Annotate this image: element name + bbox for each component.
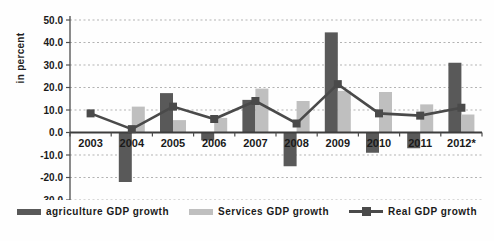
svg-text:20.0: 20.0 — [44, 82, 64, 93]
legend-item-agriculture: agriculture GDP growth — [17, 206, 169, 217]
legend-item-real-gdp: Real GDP growth — [349, 206, 477, 217]
svg-text:-10.0: -10.0 — [40, 150, 63, 161]
svg-text:0.0: 0.0 — [49, 127, 63, 138]
svg-text:2009: 2009 — [326, 137, 350, 149]
svg-text:2011: 2011 — [408, 137, 432, 149]
services-bar-swatch-icon — [189, 209, 213, 215]
svg-text:2006: 2006 — [202, 137, 226, 149]
svg-text:2008: 2008 — [284, 137, 308, 149]
svg-text:2003: 2003 — [78, 137, 102, 149]
legend-item-services: Services GDP growth — [189, 206, 329, 217]
svg-text:2010: 2010 — [367, 137, 391, 149]
svg-text:-30.0: -30.0 — [40, 195, 63, 201]
gdp-growth-chart: in percent 50.040.030.020.010.00.0-10.0-… — [0, 0, 494, 241]
real-gdp-line-swatch-icon — [349, 207, 383, 216]
svg-text:30.0: 30.0 — [44, 60, 64, 71]
svg-text:50.0: 50.0 — [44, 15, 64, 26]
agriculture-bar-swatch-icon — [17, 209, 41, 215]
legend-label-real-gdp: Real GDP growth — [388, 206, 477, 217]
svg-text:2012*: 2012* — [447, 137, 476, 149]
line-swatch-marker — [362, 207, 371, 216]
chart-legend: agriculture GDP growth Services GDP grow… — [0, 206, 494, 217]
chart-plot-area: 50.040.030.020.010.00.0-10.0-20.0-30.020… — [0, 0, 494, 200]
svg-text:2004: 2004 — [120, 137, 145, 149]
svg-text:2005: 2005 — [161, 137, 185, 149]
svg-text:-20.0: -20.0 — [40, 172, 63, 183]
svg-text:40.0: 40.0 — [44, 37, 64, 48]
svg-text:2007: 2007 — [243, 137, 267, 149]
legend-label-services: Services GDP growth — [218, 206, 329, 217]
svg-text:10.0: 10.0 — [44, 105, 64, 116]
legend-label-agriculture: agriculture GDP growth — [46, 206, 169, 217]
